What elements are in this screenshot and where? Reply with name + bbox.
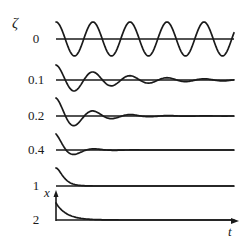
t-axis-label: t xyxy=(228,224,232,239)
x-axis-arrow-icon xyxy=(54,190,59,197)
response-curve-zeta-1 xyxy=(56,168,234,186)
response-curve-zeta-2 xyxy=(56,203,234,220)
t-axis-arrow-icon xyxy=(231,218,239,224)
response-curve-zeta-0.2 xyxy=(56,98,234,126)
series-label-zeta-2: 2 xyxy=(33,212,40,227)
damped-oscillation-chart: ζ 00.10.20.412 x t xyxy=(0,0,249,246)
series-label-zeta-0.4: 0.4 xyxy=(28,142,45,157)
series-label-zeta-0: 0 xyxy=(33,31,40,46)
series-group: 00.10.20.412 xyxy=(28,22,234,227)
zeta-symbol: ζ xyxy=(12,15,19,31)
series-label-zeta-1: 1 xyxy=(33,178,40,193)
x-axis-label: x xyxy=(43,185,50,200)
response-curve-zeta-0.4 xyxy=(56,134,234,154)
series-label-zeta-0.1: 0.1 xyxy=(28,72,44,87)
series-label-zeta-0.2: 0.2 xyxy=(28,108,44,123)
response-curve-zeta-0.1 xyxy=(56,65,234,91)
